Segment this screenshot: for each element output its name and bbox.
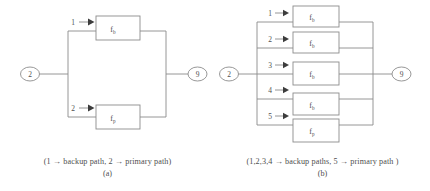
source-node-b-label: 2 [227, 70, 231, 79]
branch-1-arrow-a [79, 19, 95, 26]
branch-4-block-b [293, 93, 339, 115]
branch-4-arrow-b [275, 87, 289, 94]
branch-2-arrow-a [79, 105, 95, 112]
figure-a-label: (a) [0, 168, 215, 179]
figure-b-label: (b) [215, 168, 430, 179]
branch-1-path-number-b: 1 [268, 9, 272, 18]
figure-b: 2 1 fb 2 fb [215, 0, 430, 191]
source-node-a-label: 2 [28, 70, 32, 79]
figure-a-caption: (1 → backup path, 2 → primary path) [0, 156, 215, 167]
source-node-a: 2 [21, 67, 40, 81]
figure-a-caption-block: (1 → backup path, 2 → primary path) (a) [0, 156, 215, 179]
figure-a: 2 1 fb 2 [0, 0, 215, 191]
sink-node-a-label: 9 [196, 70, 200, 79]
branch-1-block-sub-b: b [312, 17, 315, 23]
branch-5-path-number-b: 5 [268, 112, 272, 121]
branch-2-path-number-b: 2 [268, 35, 272, 44]
branch-3-arrow-b [275, 62, 289, 69]
branch-4-path-number-b: 4 [268, 86, 272, 95]
branch-4-block-sub-b: b [312, 105, 315, 111]
sink-node-b: 9 [392, 67, 411, 81]
branch-2-path-number-a: 2 [71, 104, 75, 113]
sink-node-b-label: 9 [400, 70, 404, 79]
sink-node-a: 9 [188, 67, 207, 81]
figure-b-caption-block: (1,2,3,4 → backup paths, 5 → primary pat… [215, 156, 430, 179]
figure-b-caption: (1,2,3,4 → backup paths, 5 → primary pat… [215, 156, 430, 167]
branch-1-block-sub-a: b [113, 29, 116, 35]
branch-1-arrow-b [275, 10, 289, 17]
branch-2-block-b [293, 32, 339, 53]
branch-2-block-sub-b: b [312, 43, 315, 49]
figure-a-canvas: 2 1 fb 2 [0, 0, 215, 155]
source-node-b: 2 [220, 67, 239, 81]
branch-5-block-sub-b: p [312, 131, 315, 137]
branch-1-block-b [293, 6, 339, 27]
branch-2-block-a [96, 105, 140, 129]
branch-5-arrow-b [275, 113, 289, 120]
figure-b-canvas: 2 1 fb 2 fb [215, 0, 430, 155]
branch-2-block-sub-a: p [113, 118, 116, 124]
branch-3-block-sub-b: b [312, 74, 315, 80]
branch-5-block-b [293, 119, 339, 142]
branch-3-block-b [293, 62, 339, 85]
branch-1-block-a [96, 16, 140, 40]
branch-1-path-number-a: 1 [71, 18, 75, 27]
branch-3-path-number-b: 3 [268, 61, 272, 70]
branch-2-arrow-b [275, 36, 289, 43]
